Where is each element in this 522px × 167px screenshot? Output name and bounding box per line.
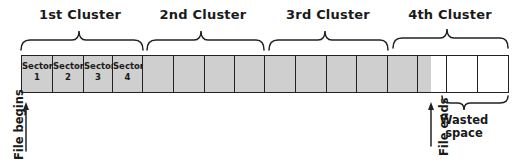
sector-cell-4: Sector4 [113,55,143,93]
sector-cell-9 [265,55,296,93]
sector-cell-8 [235,55,265,93]
wasted-space-label: Wasted space [440,114,488,140]
cluster-brace-4 [393,29,508,48]
sector-cell-14 [418,55,447,93]
sector-label-1: Sector1 [22,61,52,83]
file-begins-label: File begins [12,89,26,160]
wasted-brace [442,96,508,110]
cluster-brace-2 [147,31,264,50]
sector-label-3: Sector3 [84,61,112,83]
file-ends-arrowhead [428,102,434,110]
sector-cell-5 [143,55,174,93]
sector-label-4: Sector4 [113,61,142,83]
cluster-brace-3 [269,31,388,50]
sector-cell-10 [296,55,327,93]
sector-cell-7 [205,55,235,93]
sector-cell-16 [478,55,509,93]
sector-cell-15 [447,55,478,93]
sector-cell-1: Sector1 [21,55,53,93]
sector-cell-11 [327,55,357,93]
sector-cell-13 [388,55,418,93]
sector-label-2: Sector2 [53,61,83,83]
cluster-brace-1 [21,31,143,50]
sector-cell-12 [357,55,388,93]
sector-cell-6 [174,55,205,93]
sector-cell-2: Sector2 [53,55,84,93]
sector-cell-3: Sector3 [84,55,113,93]
